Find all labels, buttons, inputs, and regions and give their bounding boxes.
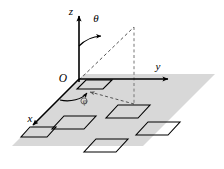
x-axis-label: x	[27, 112, 33, 124]
y-axis-label: y	[155, 60, 161, 72]
spherical-coordinate-diagram: z y x O θ φ	[0, 0, 224, 169]
radial-ray	[79, 27, 134, 80]
theta-label: θ	[93, 12, 99, 24]
z-axis-label: z	[68, 5, 74, 17]
phi-label: φ	[83, 97, 88, 106]
theta-arc	[79, 36, 101, 46]
origin-label: O	[59, 72, 68, 84]
figure-container: z y x O θ φ	[0, 0, 224, 169]
